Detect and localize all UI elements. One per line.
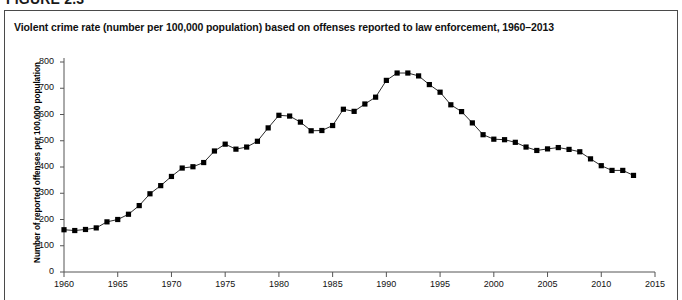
x-tick-label: 2015 [635, 279, 675, 289]
data-point-marker [309, 128, 314, 133]
x-tick-label: 2005 [528, 279, 568, 289]
data-point-marker [341, 107, 346, 112]
y-tick-label: 400 [28, 161, 54, 171]
data-point-marker [266, 125, 271, 130]
data-point-marker [491, 137, 496, 142]
x-tick-label: 1995 [420, 279, 460, 289]
data-point-marker [212, 148, 217, 153]
data-point-marker [61, 227, 66, 232]
data-point-marker [480, 132, 485, 137]
data-point-marker [502, 137, 507, 142]
x-tick-label: 1960 [44, 279, 84, 289]
x-tick-label: 1980 [259, 279, 299, 289]
y-tick-label: 700 [28, 82, 54, 92]
data-point-marker [147, 191, 152, 196]
series-line [64, 73, 634, 231]
x-tick-label: 1970 [151, 279, 191, 289]
y-tick-label: 100 [28, 240, 54, 250]
data-point-marker [631, 173, 636, 178]
data-point-marker [137, 203, 142, 208]
data-point-marker [330, 123, 335, 128]
data-point-marker [126, 212, 131, 217]
data-point-marker [362, 101, 367, 106]
y-tick-label: 300 [28, 187, 54, 197]
data-point-marker [276, 113, 281, 118]
data-point-marker [384, 78, 389, 83]
data-point-marker [158, 183, 163, 188]
data-point-marker [448, 102, 453, 107]
data-point-marker [373, 95, 378, 100]
data-point-marker [545, 146, 550, 151]
data-point-marker [427, 82, 432, 87]
data-point-marker [233, 147, 238, 152]
y-tick-label: 0 [28, 266, 54, 276]
data-point-marker [556, 145, 561, 150]
data-point-marker [104, 219, 109, 224]
data-point-marker [201, 160, 206, 165]
data-point-marker [566, 147, 571, 152]
x-tick-label: 1965 [98, 279, 138, 289]
data-point-marker [534, 148, 539, 153]
data-point-marker [72, 228, 77, 233]
data-point-marker [577, 149, 582, 154]
data-point-marker [190, 164, 195, 169]
data-point-marker [513, 140, 518, 145]
data-point-marker [395, 70, 400, 75]
data-point-marker [588, 156, 593, 161]
data-point-marker [255, 139, 260, 144]
data-point-marker [169, 174, 174, 179]
data-point-marker [416, 73, 421, 78]
data-point-marker [223, 142, 228, 147]
x-tick-label: 1975 [205, 279, 245, 289]
data-point-marker [459, 109, 464, 114]
data-point-marker [599, 163, 604, 168]
data-point-marker [287, 113, 292, 118]
y-tick-label: 500 [28, 135, 54, 145]
data-point-marker [115, 217, 120, 222]
data-point-marker [83, 227, 88, 232]
data-point-marker [437, 90, 442, 95]
x-tick-label: 2010 [581, 279, 621, 289]
data-point-marker [405, 70, 410, 75]
y-tick-label: 200 [28, 214, 54, 224]
y-tick-label: 600 [28, 109, 54, 119]
x-tick-label: 2000 [474, 279, 514, 289]
data-point-marker [94, 225, 99, 230]
y-tick-label: 800 [28, 56, 54, 66]
data-point-marker [244, 144, 249, 149]
data-point-marker [180, 165, 185, 170]
data-point-marker [319, 128, 324, 133]
data-point-marker [352, 109, 357, 114]
x-tick-label: 1990 [366, 279, 406, 289]
data-point-marker [470, 120, 475, 125]
data-point-marker [609, 168, 614, 173]
data-point-marker [523, 144, 528, 149]
data-point-marker [620, 168, 625, 173]
x-tick-label: 1985 [313, 279, 353, 289]
data-point-marker [298, 120, 303, 125]
